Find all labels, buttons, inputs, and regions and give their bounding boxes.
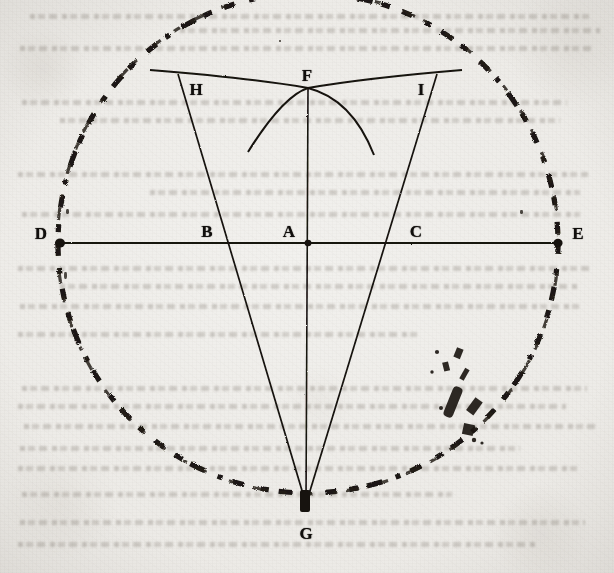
plate-speck	[520, 210, 523, 214]
point-label-G: G	[299, 525, 312, 542]
point-label-H: H	[189, 81, 202, 98]
point-marker-A	[305, 240, 312, 246]
plate-speck	[64, 272, 67, 279]
point-marker-E	[553, 239, 562, 247]
line-F-to-G	[306, 88, 308, 504]
point-marker-D	[55, 238, 65, 247]
point-label-F: F	[302, 67, 312, 84]
construction-lines	[60, 74, 558, 504]
point-label-C: C	[410, 223, 422, 240]
line-H-to-G	[178, 74, 306, 504]
plate-speck	[279, 40, 281, 42]
point-label-E: E	[572, 225, 583, 242]
point-label-I: I	[418, 81, 425, 98]
plate-speck	[66, 209, 69, 214]
geometric-figure	[0, 0, 614, 573]
figure-page: D B A C E F G H I	[0, 0, 614, 573]
arc-from-I	[248, 70, 462, 152]
point-label-D: D	[35, 225, 47, 242]
line-I-to-G	[306, 74, 437, 504]
point-label-B: B	[201, 223, 212, 240]
point-marker-G	[300, 490, 310, 512]
point-label-A: A	[283, 223, 295, 240]
point-markers	[55, 238, 563, 512]
